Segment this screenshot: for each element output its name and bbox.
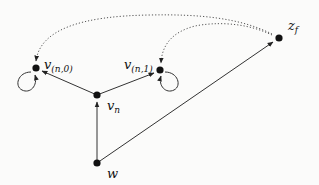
graph-diagram	[0, 0, 319, 185]
dotted-edge-zf-to-vn0	[36, 15, 272, 61]
label-vn0: v(n,0)	[44, 58, 73, 74]
node-zf	[275, 34, 282, 41]
label-vn: vn	[107, 99, 120, 115]
label-w: w	[107, 167, 118, 180]
label-vn1: v(n,1)	[124, 58, 153, 74]
node-vn1	[156, 66, 163, 73]
label-zf-main: z	[288, 18, 295, 33]
node-vn	[93, 91, 100, 98]
node-w	[93, 159, 100, 166]
self-loop-vn1	[160, 72, 178, 91]
label-vn0-sub: (n,0)	[51, 64, 72, 74]
label-zf-sub: f	[295, 25, 298, 35]
label-w-main: w	[107, 166, 118, 181]
label-zf: zf	[288, 19, 298, 35]
node-vn0	[32, 64, 39, 71]
edge-vn-to-vn0	[42, 71, 97, 95]
label-vn-sub: n	[114, 105, 120, 115]
edge-vn-to-vn1	[97, 73, 154, 95]
label-vn1-sub: (n,1)	[131, 64, 152, 74]
dotted-edge-zf-to-vn1	[161, 24, 272, 63]
self-loop-vn0	[18, 72, 36, 91]
